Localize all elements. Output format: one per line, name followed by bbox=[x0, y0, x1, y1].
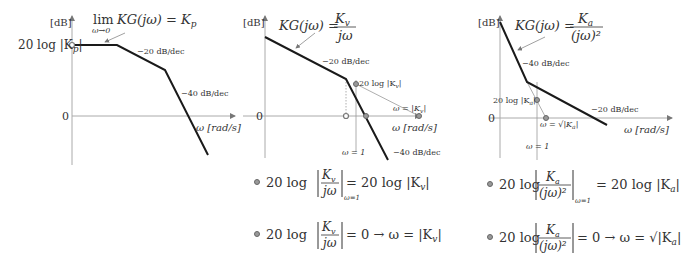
equation-2: 20 log Ka (jω)² = 0 → ω = √|Ka| bbox=[488, 223, 682, 253]
equations-type1: 20 log Kv jω ω=1 = 20 log |Kv| 20 log Kv… bbox=[255, 168, 442, 250]
svg-text:20 log: 20 log bbox=[266, 227, 307, 242]
gain-point-label: 20 log |Kv| bbox=[359, 79, 402, 89]
magnitude-asymptote bbox=[265, 37, 388, 160]
formula-pointer bbox=[296, 33, 315, 48]
zero-label: 0 bbox=[488, 112, 495, 125]
equation-1: 20 log Ka (jω)² ω=1 = 20 log |Ka| bbox=[488, 170, 681, 205]
svg-text:20 log: 20 log bbox=[266, 175, 307, 190]
svg-text:Kv: Kv bbox=[321, 220, 336, 236]
gain-point-label: 20 log |Ka| bbox=[493, 96, 536, 106]
equation-2: 20 log Kv jω = 0 → ω = |Kv| bbox=[255, 220, 442, 250]
x-axis-label: ω [rad/s] bbox=[624, 124, 669, 135]
formula-type0: KG(jω) = Kp bbox=[116, 12, 197, 29]
slope2-label: −40 dB/dec bbox=[393, 148, 441, 157]
svg-text:Ka: Ka bbox=[545, 170, 560, 186]
slope2-label: −40 dB/dec bbox=[181, 89, 229, 98]
formula-num: Ka bbox=[577, 11, 593, 28]
svg-text:jω: jω bbox=[320, 236, 337, 250]
omega-1-label: ω = 1 bbox=[342, 148, 365, 157]
x-axis-label: ω [rad/s] bbox=[392, 122, 437, 133]
formula-den: jω bbox=[335, 28, 353, 43]
x-axis-label: ω [rad/s] bbox=[196, 122, 241, 133]
slope1-label: −20 dB/dec bbox=[137, 47, 185, 56]
svg-text:= 0 → ω = |Kv|: = 0 → ω = |Kv| bbox=[346, 227, 442, 244]
y-unit-label: [dB] bbox=[478, 17, 500, 28]
svg-text:ω=1: ω=1 bbox=[344, 194, 360, 202]
bullet-icon bbox=[255, 232, 260, 237]
formula-den: (jω)² bbox=[571, 28, 601, 43]
crossing-label: ω = |Kv| bbox=[393, 104, 426, 114]
svg-text:= 20 log |Kv|: = 20 log |Kv| bbox=[346, 175, 430, 192]
formula-lhs: KG(jω) = bbox=[278, 18, 339, 33]
plot-type0: [dB] 0 ω [rad/s] 20 log |Kp| lim ω→0 KG(… bbox=[18, 12, 241, 165]
lim-sub: ω→0 bbox=[92, 26, 110, 35]
plot-type1: [dB] 0 ω [rad/s] KG(jω) = Kv jω −20 dB/d… bbox=[243, 11, 441, 160]
formula-pointer bbox=[518, 37, 545, 50]
formula-lhs: KG(jω) = bbox=[514, 18, 575, 33]
plot-type2: [dB] 0 ω [rad/s] KG(jω) = Ka (jω)² −40 d… bbox=[478, 11, 672, 160]
zero-label: 0 bbox=[256, 110, 263, 123]
y-unit-label: [dB] bbox=[243, 17, 265, 28]
bode-diagrams: [dB] 0 ω [rad/s] 20 log |Kp| lim ω→0 KG(… bbox=[0, 0, 691, 260]
slope1-label: −40 dB/dec bbox=[522, 59, 570, 68]
omega-1-label: ω = 1 bbox=[526, 142, 549, 151]
svg-text:ω=1: ω=1 bbox=[575, 197, 591, 205]
svg-text:= 20 log |Ka|: = 20 log |Ka| bbox=[596, 177, 680, 194]
svg-text:jω: jω bbox=[320, 184, 337, 198]
equation-1: 20 log Kv jω ω=1 = 20 log |Kv| bbox=[255, 168, 430, 202]
svg-text:= 0 → ω = √|Ka|: = 0 → ω = √|Ka| bbox=[577, 230, 681, 247]
equations-type2: 20 log Ka (jω)² ω=1 = 20 log |Ka| 20 log… bbox=[488, 170, 682, 253]
svg-text:(jω)²: (jω)² bbox=[539, 186, 567, 200]
zero-crossing-point bbox=[364, 114, 369, 119]
lim-label: lim bbox=[93, 12, 114, 27]
bullet-icon bbox=[488, 182, 493, 187]
svg-text:Kv: Kv bbox=[321, 168, 336, 184]
svg-text:20 log: 20 log bbox=[499, 230, 540, 245]
slope1-label: −20 dB/dec bbox=[322, 57, 370, 66]
svg-text:Ka: Ka bbox=[545, 223, 560, 239]
dc-gain-label: 20 log |Kp| bbox=[18, 38, 82, 54]
bullet-icon bbox=[255, 180, 260, 185]
svg-text:20 log: 20 log bbox=[499, 177, 540, 192]
crossing-label: ω = √|Ka| bbox=[540, 120, 578, 130]
gain-at-omega1-point bbox=[354, 82, 359, 87]
formula-num: Kv bbox=[334, 11, 350, 28]
bullet-icon bbox=[488, 235, 493, 240]
magnitude-asymptote bbox=[72, 45, 208, 155]
slope2-label: −20 dB/dec bbox=[591, 105, 639, 114]
y-unit-label: [dB] bbox=[50, 17, 72, 28]
zero-label: 0 bbox=[62, 110, 69, 123]
break-point bbox=[344, 114, 349, 119]
crossing-kv-point bbox=[417, 114, 422, 119]
svg-text:(jω)²: (jω)² bbox=[539, 239, 567, 253]
